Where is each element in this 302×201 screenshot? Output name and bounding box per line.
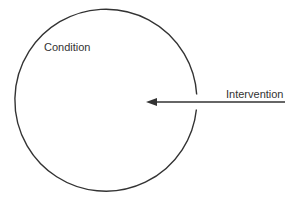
diagram-canvas: Condition Intervention bbox=[0, 0, 302, 201]
arrowhead-icon bbox=[146, 98, 157, 106]
condition-label: Condition bbox=[44, 41, 90, 53]
intervention-label: Intervention bbox=[226, 88, 283, 100]
condition-circle bbox=[15, 9, 197, 191]
